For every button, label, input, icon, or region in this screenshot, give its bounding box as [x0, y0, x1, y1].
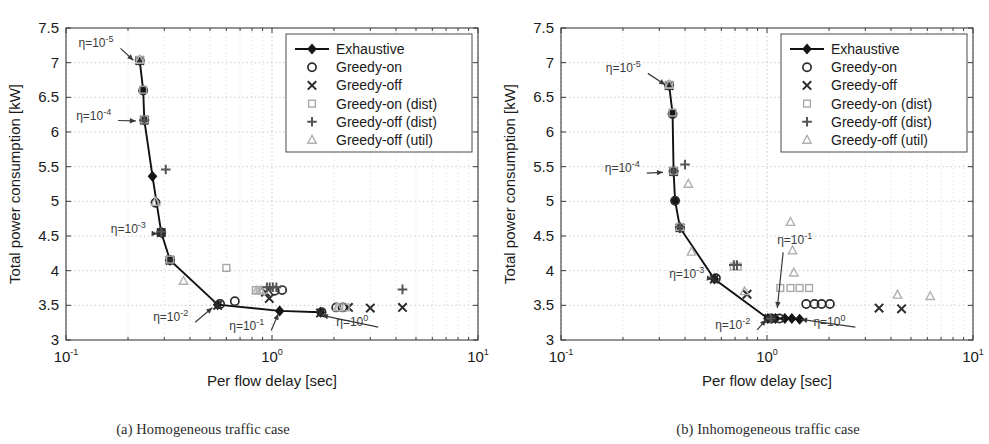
- marker-cross-x: [398, 303, 406, 311]
- x-tick-label: 101: [467, 347, 489, 365]
- marker-square: [777, 285, 784, 292]
- legend-label: Greedy-off: [831, 77, 897, 93]
- marker-diamond: [276, 306, 284, 315]
- annotation-label: η=10-5: [606, 59, 641, 75]
- x-axis-label: Per flow delay [sec]: [702, 372, 832, 389]
- y-tick-label: 4.5: [38, 227, 59, 244]
- y-tick-label: 3: [51, 331, 59, 348]
- legend: ExhaustiveGreedy-onGreedy-offGreedy-on (…: [781, 34, 967, 152]
- annotation-label: η=10-1: [777, 231, 812, 247]
- y-tick-label: 4: [51, 262, 59, 279]
- y-tick-label: 6.5: [533, 88, 554, 105]
- annotation-label: η=10-4: [605, 159, 640, 175]
- legend-label: Greedy-off: [336, 77, 402, 93]
- annotation-arrowhead: [130, 118, 136, 123]
- x-tick-label: 10-1: [549, 347, 574, 365]
- legend-label: Greedy-off (dist): [831, 114, 932, 130]
- annotation-label: η=10-2: [715, 316, 750, 332]
- marker-triangle: [179, 276, 187, 284]
- caption-a: (a) Homogeneous traffic case: [0, 421, 450, 438]
- legend: ExhaustiveGreedy-onGreedy-offGreedy-on (…: [286, 34, 472, 152]
- y-axis-label: Total power consumption [kW]: [6, 84, 23, 284]
- marker-circle: [231, 297, 239, 305]
- marker-triangle: [893, 290, 901, 298]
- plot-a: 33.544.555.566.577.510-1100101Per flow d…: [0, 0, 494, 400]
- y-tick-label: 5: [546, 192, 554, 209]
- y-tick-label: 5.5: [38, 158, 59, 175]
- y-tick-label: 7.5: [533, 19, 554, 36]
- x-tick-label: 101: [962, 347, 984, 365]
- y-tick-label: 3: [546, 331, 554, 348]
- plot-b: 33.544.555.566.577.510-1100101Per flow d…: [495, 0, 989, 400]
- annotation-label: η=10-4: [76, 107, 111, 123]
- y-tick-label: 5: [51, 192, 59, 209]
- y-tick-label: 6: [51, 123, 59, 140]
- panel-b: 33.544.555.566.577.510-1100101Per flow d…: [495, 0, 989, 444]
- annotation-label: η=100: [813, 313, 845, 329]
- legend-label: Exhaustive: [831, 41, 900, 57]
- legend-label: Greedy-on (dist): [336, 96, 437, 112]
- marker-diamond: [788, 314, 796, 323]
- annotation-arrow: [777, 252, 783, 308]
- legend-label: Greedy-on: [831, 59, 897, 75]
- marker-square: [806, 285, 813, 292]
- legend-label: Greedy-on: [336, 59, 402, 75]
- marker-cross-x: [897, 305, 905, 313]
- legend-label: Greedy-off (dist): [336, 114, 437, 130]
- annotation-arrowhead: [657, 170, 663, 175]
- y-tick-label: 4.5: [533, 227, 554, 244]
- marker-square: [796, 285, 803, 292]
- y-tick-label: 4: [546, 262, 554, 279]
- y-tick-label: 7: [546, 54, 554, 71]
- caption-b: (b) Inhomogeneous traffic case: [521, 421, 989, 438]
- legend-label: Exhaustive: [336, 41, 405, 57]
- marker-diamond: [149, 172, 157, 181]
- x-tick-label: 100: [756, 347, 778, 365]
- panel-a: 33.544.555.566.577.510-1100101Per flow d…: [0, 0, 494, 444]
- marker-plus: [161, 165, 171, 175]
- annotation-label: η=10-3: [669, 265, 704, 281]
- marker-circle: [826, 300, 834, 308]
- annotation-label: η=10-1: [229, 317, 264, 333]
- y-tick-label: 6: [546, 123, 554, 140]
- figure-root: 33.544.555.566.577.510-1100101Per flow d…: [0, 0, 989, 444]
- annotation-arrowhead: [659, 79, 666, 85]
- x-tick-label: 100: [261, 347, 283, 365]
- x-axis-label: Per flow delay [sec]: [207, 372, 337, 389]
- marker-triangle: [684, 179, 692, 187]
- x-tick-label: 10-1: [54, 347, 79, 365]
- marker-circle: [802, 300, 810, 308]
- marker-plus: [680, 160, 690, 170]
- annotation-label: η=10-5: [79, 34, 114, 50]
- y-tick-label: 3.5: [38, 296, 59, 313]
- marker-cross-x: [875, 304, 883, 312]
- y-tick-label: 7: [51, 54, 59, 71]
- y-tick-label: 7.5: [38, 19, 59, 36]
- y-tick-label: 6.5: [38, 88, 59, 105]
- y-tick-label: 5.5: [533, 158, 554, 175]
- annotation-label: η=10-2: [153, 308, 188, 324]
- marker-square: [787, 285, 794, 292]
- marker-triangle: [786, 218, 794, 226]
- marker-plus: [398, 285, 408, 295]
- annotation-label: η=10-3: [111, 220, 146, 236]
- marker-triangle: [790, 268, 798, 276]
- y-axis-label: Total power consumption [kW]: [501, 84, 518, 284]
- y-tick-label: 3.5: [533, 296, 554, 313]
- legend-label: Greedy-off (util): [336, 132, 433, 148]
- legend-label: Greedy-off (util): [831, 132, 928, 148]
- legend-label: Greedy-on (dist): [831, 96, 932, 112]
